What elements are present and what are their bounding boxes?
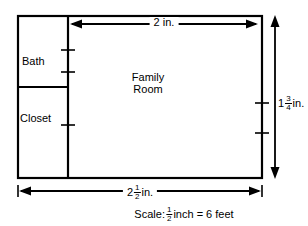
outer-wall-rectangle bbox=[18, 16, 262, 178]
room-label-family-room: Family Room bbox=[132, 72, 164, 95]
dimension-bottom-numerator: 1 bbox=[134, 184, 140, 192]
dimension-bottom-fraction: 12 bbox=[134, 184, 140, 201]
room-label-family-room-line1: Family bbox=[132, 72, 164, 84]
dimension-label-right: 134in. bbox=[278, 95, 304, 112]
scale-suffix: inch = 6 feet bbox=[173, 208, 233, 220]
dimension-label-top-text: 2 in. bbox=[154, 16, 175, 28]
scale-denominator: 2 bbox=[166, 214, 172, 223]
scale-numerator: 1 bbox=[166, 206, 172, 214]
dimension-right-denominator: 4 bbox=[285, 103, 291, 112]
dimension-right-numerator: 3 bbox=[285, 95, 291, 103]
dimension-right-fraction: 34 bbox=[285, 95, 291, 112]
room-label-family-room-line2: Room bbox=[132, 84, 164, 96]
room-label-bath: Bath bbox=[22, 56, 45, 68]
dimension-right-unit: in. bbox=[293, 97, 305, 109]
dimension-label-bottom: 212in. bbox=[123, 184, 157, 201]
scale-prefix: Scale: bbox=[134, 208, 165, 220]
dimension-bottom-whole: 2 bbox=[127, 186, 133, 198]
dimension-bottom-denominator: 2 bbox=[134, 192, 140, 201]
dimension-label-top: 2 in. bbox=[150, 17, 179, 29]
room-label-closet: Closet bbox=[20, 113, 51, 125]
dimension-right-whole: 1 bbox=[278, 97, 284, 109]
scale-caption: Scale:12inch = 6 feet bbox=[134, 206, 233, 223]
dimension-bottom-unit: in. bbox=[141, 186, 153, 198]
scale-drawing-diagram: Bath Closet Family Room 2 in. 134in. 212… bbox=[0, 0, 308, 226]
scale-fraction: 12 bbox=[166, 206, 172, 223]
